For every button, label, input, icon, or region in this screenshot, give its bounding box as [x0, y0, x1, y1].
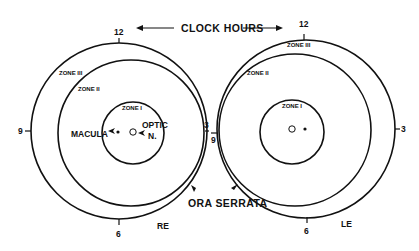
le-clock-3: 3 [401, 124, 406, 134]
re-zone3-label: ZONE III [59, 70, 83, 76]
arrow-right-icon [276, 25, 283, 31]
retina-zones-diagram: CLOCK HOURS 12 9 6 3 ZONE III ZONE II ZO… [0, 0, 419, 251]
re-zone2-label: ZONE II [78, 86, 100, 92]
re-zone1-label: ZONE I [122, 105, 142, 111]
le-clock-9: 9 [211, 135, 216, 145]
ora-serrata-annotation: ORA SERRATA [188, 184, 267, 209]
re-clock-3: 3 [204, 120, 209, 130]
right-eye-diagram: 12 9 6 3 ZONE III ZONE II ZONE I MACULA … [18, 27, 209, 239]
re-label: RE [157, 221, 169, 231]
re-clock-9: 9 [18, 126, 23, 136]
optic-arrow-icon [138, 130, 145, 136]
optic-label-line1: OPTIC [142, 120, 168, 130]
re-macula-dot [116, 130, 119, 133]
ora-serrata-label: ORA SERRATA [188, 197, 267, 209]
le-zone1-label: ZONE I [282, 103, 302, 109]
le-zone2-label: ZONE II [247, 70, 269, 76]
ora-arrow-right-icon [231, 184, 238, 190]
re-clock-6: 6 [116, 229, 121, 239]
le-label: LE [341, 219, 352, 229]
le-optic-disc [289, 126, 295, 132]
macula-arrow-icon [108, 128, 115, 134]
le-clock-6: 6 [304, 226, 309, 236]
le-macula-dot [303, 127, 306, 130]
le-zone3-label: ZONE III [287, 42, 311, 48]
re-clock-12: 12 [114, 27, 124, 37]
macula-label: MACULA [71, 129, 108, 139]
ora-arrow-left-icon [191, 185, 196, 192]
optic-label-line2: N. [148, 131, 157, 141]
clock-hours-title: CLOCK HOURS [136, 22, 283, 34]
re-optic-disc [130, 129, 136, 135]
arrow-left-icon [136, 25, 143, 31]
le-clock-12: 12 [299, 19, 309, 29]
